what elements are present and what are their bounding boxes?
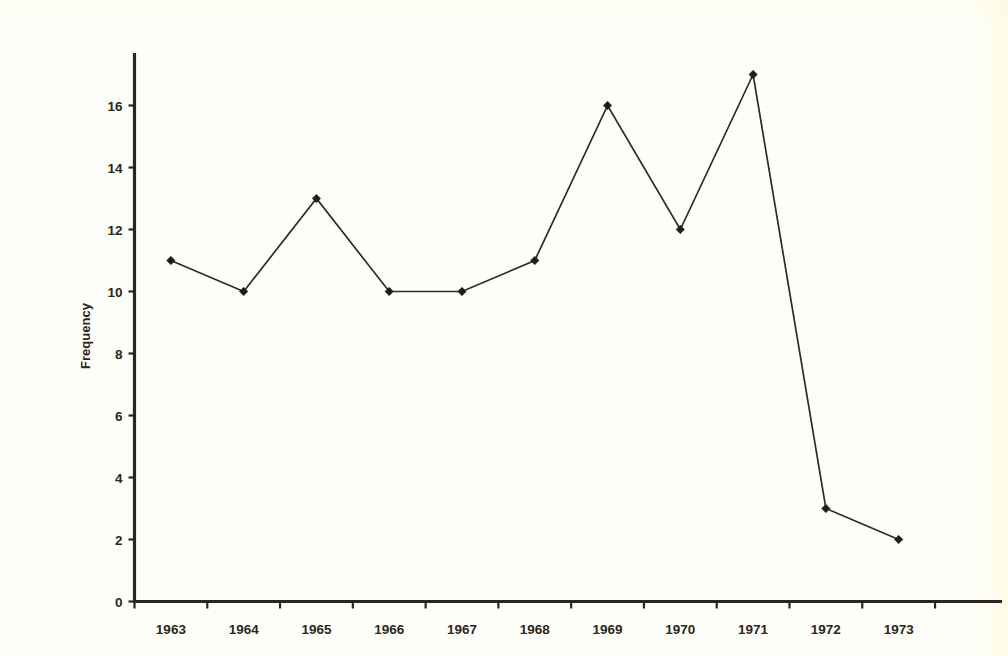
frequency-series-line: [171, 75, 899, 540]
data-point-marker: [822, 504, 830, 512]
y-axis-tick-label: 14: [107, 161, 123, 176]
y-axis-tick-label: 8: [115, 347, 123, 362]
data-point-marker: [458, 287, 466, 295]
data-point-marker: [676, 225, 684, 233]
data-point-marker: [749, 70, 757, 78]
data-point-marker: [167, 256, 175, 264]
x-axis-tick-label: 1967: [447, 622, 477, 637]
y-axis-tick-label: 16: [107, 99, 123, 114]
x-axis-tick-label: 1963: [156, 622, 187, 637]
x-axis-tick-label: 1973: [884, 622, 915, 637]
y-axis-tick-label: 12: [107, 223, 122, 238]
data-point-marker: [603, 101, 611, 109]
x-axis-tick-label: 1972: [811, 622, 841, 637]
chart-plot-area: 0246810121416 19631964196519661967196819…: [40, 16, 1008, 656]
x-axis-tick-labels: 1963196419651966196719681969197019711972…: [156, 622, 914, 637]
y-axis-tick-label: 4: [115, 471, 123, 486]
data-point-marker: [894, 535, 902, 543]
y-axis-tick-label: 6: [115, 409, 123, 424]
frequency-by-year-line-chart: 0246810121416 19631964196519661967196819…: [40, 16, 1008, 656]
x-axis-tick-label: 1971: [738, 622, 769, 637]
y-axis-tick-label: 2: [115, 533, 123, 548]
x-axis-tick-label: 1970: [665, 622, 695, 637]
x-axis-tick-label: 1966: [374, 622, 405, 637]
y-axis-tick-labels: 0246810121416: [107, 99, 123, 610]
x-axis-tick-label: 1968: [520, 622, 551, 637]
y-axis-tick-label: 10: [107, 285, 122, 300]
x-axis-tick-label: 1965: [301, 622, 332, 637]
y-axis-title: Frequency: [78, 302, 93, 369]
y-axis-tick-label: 0: [115, 595, 123, 610]
x-axis-tick-label: 1964: [229, 622, 260, 637]
x-axis-tick-label: 1969: [593, 622, 623, 637]
data-point-marker: [531, 256, 539, 264]
